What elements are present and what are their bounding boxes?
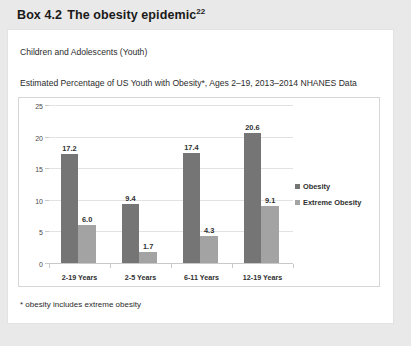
y-axis-tick [45,168,49,169]
chart-plot-area: 17.26.02-19 Years9.41.72-5 Years17.44.36… [49,106,293,264]
bar-extreme-obesity [200,236,218,263]
bar-obesity [183,153,201,263]
page-title: Box 4.2The obesity epidemic22 [17,7,205,22]
bar-extreme-obesity [78,225,96,263]
y-axis-tick [45,105,49,106]
x-axis-tick [110,264,111,268]
x-axis-tick [232,264,233,268]
y-axis-tick-label: 20 [35,134,43,141]
y-axis-tick [45,200,49,201]
page-background: Box 4.2The obesity epidemic22 Children a… [0,0,411,346]
bar-obesity [61,154,79,263]
x-axis-tick [49,264,50,268]
x-axis-category-label: 2-19 Years [62,273,97,282]
bar-obesity [122,204,140,263]
y-axis-tick-label: 25 [35,103,43,110]
legend-swatch-icon [295,200,300,205]
y-axis-tick-label: 5 [39,229,43,236]
reference-superscript: 22 [196,7,205,16]
legend-label: Obesity [303,182,330,191]
bar-value-label: 17.2 [62,144,76,153]
bar-chart: 0510152025 17.26.02-19 Years9.41.72-5 Ye… [18,97,380,287]
card-heading: Children and Adolescents (Youth) [20,47,147,57]
bar-value-label: 1.7 [143,242,153,251]
bar-value-label: 17.4 [184,143,198,152]
y-axis-tick [45,137,49,138]
chart-plot-wrapper: 0510152025 17.26.02-19 Years9.41.72-5 Ye… [19,98,379,286]
box-number: Box 4.2 [17,8,62,22]
bar-obesity [244,133,262,263]
x-axis-category-label: 2-5 Years [125,273,156,282]
y-axis-tick-label: 15 [35,166,43,173]
legend-item: Obesity [295,182,367,191]
content-card: Children and Adolescents (Youth) Estimat… [8,30,393,323]
bar-value-label: 9.1 [265,196,275,205]
box-title-text: The obesity epidemic [67,8,196,22]
bar-extreme-obesity [139,252,157,263]
chart-footnote: * obesity includes extreme obesity [20,300,141,309]
bar-value-label: 6.0 [82,215,92,224]
bar-value-label: 4.3 [204,226,214,235]
y-axis-tick [45,231,49,232]
gridline [49,105,293,106]
legend-swatch-icon [295,184,300,189]
y-axis-tick-label: 0 [39,261,43,268]
x-axis-category-label: 6-11 Years [184,273,219,282]
card-subheading: Estimated Percentage of US Youth with Ob… [20,78,357,88]
bar-value-label: 9.4 [125,194,135,203]
bar-value-label: 20.6 [245,123,259,132]
x-axis-category-label: 12-19 Years [243,273,282,282]
x-axis-tick [171,264,172,268]
legend-label: Extreme Obesity [303,198,361,207]
bar-extreme-obesity [261,206,279,264]
y-axis-tick-labels: 0510152025 [19,98,47,286]
y-axis-tick-label: 10 [35,197,43,204]
legend-item: Extreme Obesity [295,198,367,207]
chart-legend: ObesityExtreme Obesity [295,182,367,214]
x-axis-tick [293,264,294,268]
